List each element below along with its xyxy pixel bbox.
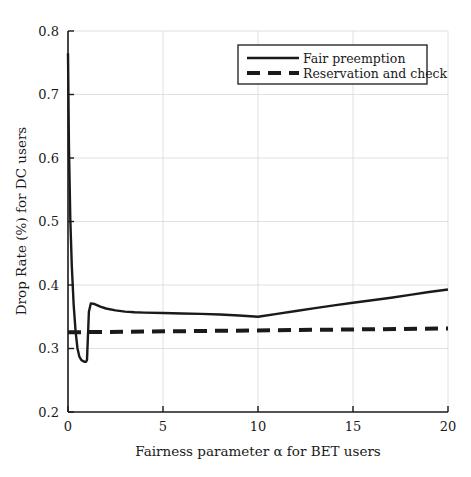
x-axis-tick-label: 15 — [345, 419, 362, 434]
chart-figure: 05101520 0.20.30.40.50.60.70.8 Fairness … — [0, 0, 471, 477]
y-axis-tick-label: 0.6 — [38, 151, 59, 166]
legend-label-reservation-and-check: Reservation and check — [303, 66, 448, 81]
y-axis-tick-label: 0.3 — [38, 341, 59, 356]
x-axis-tick-label: 0 — [64, 419, 72, 434]
y-axis-title: Drop Rate (%) for DC users — [13, 127, 29, 316]
x-axis-tick-label: 5 — [159, 419, 167, 434]
y-axis-tick-label: 0.4 — [38, 278, 59, 293]
line-chart: 05101520 0.20.30.40.50.60.70.8 Fairness … — [0, 0, 471, 477]
x-axis-tick-label: 20 — [440, 419, 457, 434]
legend: Fair preemption Reservation and check — [238, 45, 448, 84]
y-axis-tick-label: 0.5 — [38, 214, 59, 229]
x-axis-tick-label: 10 — [250, 419, 267, 434]
y-axis-tick-label: 0.7 — [38, 87, 59, 102]
x-axis-title: Fairness parameter α for BET users — [135, 443, 381, 459]
y-axis-tick-label: 0.8 — [38, 24, 59, 39]
legend-label-fair-preemption: Fair preemption — [303, 51, 405, 66]
y-axis-tick-label: 0.2 — [38, 405, 59, 420]
